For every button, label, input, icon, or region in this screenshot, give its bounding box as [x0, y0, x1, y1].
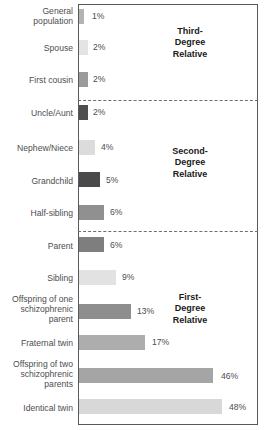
bar-value-label: 6% — [110, 240, 122, 250]
plot-frame — [78, 4, 258, 425]
bar — [79, 399, 222, 414]
bar-value-label: 2% — [93, 107, 105, 117]
category-label: Fraternal twin — [0, 338, 73, 348]
schizophrenia-risk-bar-chart: General population1%Spouse2%First cousin… — [0, 0, 269, 430]
divider-third-to-second — [78, 100, 258, 101]
bar — [79, 335, 145, 350]
bar — [79, 140, 95, 155]
bar-value-label: 48% — [229, 402, 246, 412]
category-label: Spouse — [0, 43, 73, 53]
bar-value-label: 46% — [221, 371, 238, 381]
bar — [79, 9, 84, 24]
category-label: Offspring of two schizophrenic parents — [0, 359, 73, 390]
category-label: Nephew/Niece — [0, 143, 73, 153]
bar-value-label: 1% — [92, 11, 104, 21]
bar — [79, 40, 88, 55]
bar-value-label: 4% — [101, 142, 113, 152]
bar-value-label: 5% — [106, 175, 118, 185]
category-label: General population — [0, 6, 73, 26]
category-label: Half-sibling — [0, 208, 73, 218]
bar — [79, 205, 104, 220]
category-label: Identical twin — [0, 403, 73, 413]
bar — [79, 172, 100, 187]
bar — [79, 105, 88, 120]
category-label: First cousin — [0, 75, 73, 85]
section-label-second-degree: Second- Degree Relative — [145, 146, 235, 180]
divider-second-to-first — [78, 231, 258, 232]
bar — [79, 237, 104, 252]
category-label: Parent — [0, 241, 73, 251]
category-label: Sibling — [0, 273, 73, 283]
bar — [79, 72, 88, 87]
category-label: Offspring of one schizophrenic parent — [0, 294, 73, 325]
bar — [79, 270, 116, 285]
category-label: Uncle/Aunt — [0, 108, 73, 118]
section-label-first-degree: First- Degree Relative — [145, 292, 235, 326]
bar-value-label: 6% — [110, 207, 122, 217]
bar-value-label: 9% — [122, 272, 134, 282]
bar-value-label: 17% — [152, 337, 169, 347]
section-label-third-degree: Third- Degree Relative — [145, 26, 235, 60]
bar-value-label: 2% — [93, 74, 105, 84]
bar-value-label: 2% — [93, 42, 105, 52]
bar — [79, 368, 213, 383]
bar — [79, 304, 131, 319]
category-label: Grandchild — [0, 176, 73, 186]
